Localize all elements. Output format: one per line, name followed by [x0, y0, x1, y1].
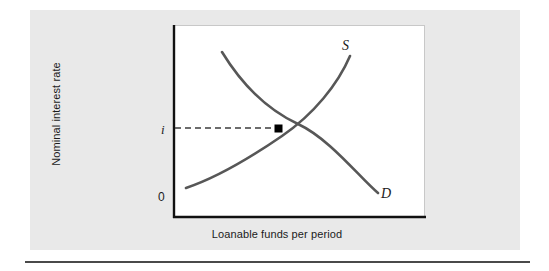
bottom-separator-rule — [25, 261, 530, 263]
x-axis-title: Loanable funds per period — [212, 228, 342, 240]
equilibrium-point-marker — [275, 125, 283, 133]
supply-curve — [186, 56, 350, 188]
supply-curve-label: S — [342, 38, 349, 54]
equilibrium-rate-label: i — [161, 122, 165, 138]
y-axis-title: Nominal interest rate — [50, 44, 62, 184]
demand-curve-label: D — [381, 186, 391, 202]
chart-graphic — [30, 10, 520, 250]
origin-label: 0 — [158, 190, 165, 204]
figure-panel: Nominal interest rate Loanable funds per… — [30, 10, 520, 250]
